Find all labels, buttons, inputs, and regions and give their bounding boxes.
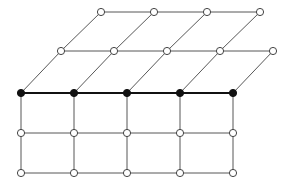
filled-node <box>229 89 236 96</box>
lattice-edge <box>167 12 207 51</box>
open-node <box>176 129 183 136</box>
lattice-edge <box>21 51 61 93</box>
open-node <box>229 129 236 136</box>
filled-node <box>176 89 183 96</box>
open-node <box>123 129 130 136</box>
open-node <box>176 169 183 176</box>
lattice-edge <box>127 51 167 93</box>
open-node <box>150 8 157 15</box>
open-node <box>97 8 104 15</box>
lattice-edge <box>61 12 101 51</box>
open-node <box>269 47 276 54</box>
lattice-edge <box>233 51 273 93</box>
open-node <box>229 169 236 176</box>
open-node <box>57 47 64 54</box>
lattice-edge <box>220 12 260 51</box>
open-node <box>123 169 130 176</box>
open-node <box>17 169 24 176</box>
lattice-edge <box>180 51 220 93</box>
lattice-edge <box>74 51 114 93</box>
open-node <box>256 8 263 15</box>
filled-node <box>123 89 130 96</box>
open-node <box>203 8 210 15</box>
open-node <box>110 47 117 54</box>
open-node <box>163 47 170 54</box>
open-node <box>17 129 24 136</box>
open-node <box>70 169 77 176</box>
filled-node <box>17 89 24 96</box>
open-node <box>216 47 223 54</box>
open-node <box>70 129 77 136</box>
filled-node <box>70 89 77 96</box>
lattice-edge <box>114 12 154 51</box>
lattice-diagram <box>0 0 291 189</box>
